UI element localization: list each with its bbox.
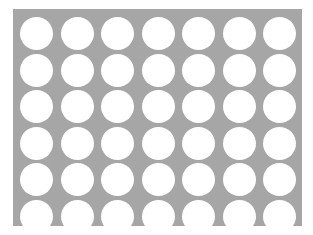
hole: [263, 200, 296, 233]
hole: [182, 54, 215, 87]
hole: [101, 163, 134, 196]
hole: [142, 200, 175, 233]
hole: [263, 54, 296, 87]
hole: [223, 200, 256, 233]
hole: [20, 163, 53, 196]
hole: [20, 127, 53, 160]
hole: [20, 54, 53, 87]
hole: [182, 127, 215, 160]
hole: [182, 17, 215, 50]
hole: [263, 17, 296, 50]
hole: [223, 17, 256, 50]
hole: [61, 54, 94, 87]
hole: [20, 90, 53, 123]
hole: [20, 17, 53, 50]
hole: [263, 127, 296, 160]
hole: [101, 200, 134, 233]
hole: [20, 200, 53, 233]
hole: [61, 163, 94, 196]
hole: [142, 90, 175, 123]
hole: [223, 90, 256, 123]
hole: [101, 17, 134, 50]
hole: [142, 54, 175, 87]
hole: [182, 163, 215, 196]
hole: [182, 200, 215, 233]
hole: [223, 54, 256, 87]
hole: [101, 54, 134, 87]
hole: [263, 90, 296, 123]
hole: [223, 127, 256, 160]
perforated-plate: [13, 9, 302, 226]
hole: [263, 163, 296, 196]
hole: [142, 17, 175, 50]
hole: [142, 163, 175, 196]
hole: [61, 127, 94, 160]
hole: [61, 17, 94, 50]
hole: [61, 200, 94, 233]
hole: [142, 127, 175, 160]
hole: [223, 163, 256, 196]
hole: [61, 90, 94, 123]
hole: [101, 127, 134, 160]
hole: [101, 90, 134, 123]
hole: [182, 90, 215, 123]
